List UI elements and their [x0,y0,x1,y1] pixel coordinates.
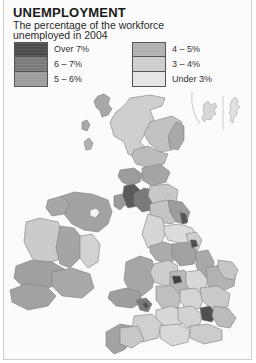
scotland [82,94,184,212]
northern-isles-inset [192,92,240,130]
uk-ireland-map [0,0,256,363]
wales [108,256,156,312]
northern-ireland [62,192,112,232]
england-midlands-east [150,260,238,310]
england-south [106,306,236,354]
